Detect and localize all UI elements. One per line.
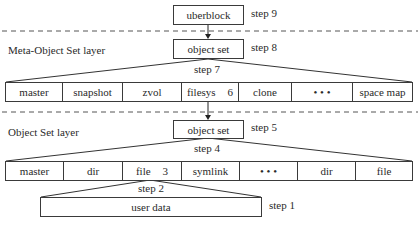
connector-lines <box>0 0 420 230</box>
cell-label: file <box>377 165 392 177</box>
step-1-label: step 1 <box>269 199 295 211</box>
step-4-label: step 4 <box>194 142 220 154</box>
os-cell-dir-2: dir <box>298 162 356 180</box>
mos-object-set-label: object set <box>188 43 230 55</box>
cell-label: • • • <box>260 165 277 177</box>
step-2-label: step 2 <box>138 182 164 194</box>
os-cell-symlink: symlink <box>182 162 240 180</box>
uberblock-label: uberblock <box>187 9 231 21</box>
cell-label: zvol <box>143 86 162 98</box>
user-data-node: user data <box>40 197 262 217</box>
cell-label: master <box>20 165 49 177</box>
step-7-label: step 7 <box>194 63 220 75</box>
mos-layer-title: Meta-Object Set layer <box>8 44 105 56</box>
cell-label: file <box>136 165 151 177</box>
step-9-label: step 9 <box>251 7 277 19</box>
cell-label: filesys <box>187 86 216 98</box>
mos-cell-ellipsis: • • • <box>292 83 353 101</box>
cell-label: master <box>19 86 48 98</box>
mos-object-row: master snapshot zvol filesys6 clone • • … <box>5 82 413 102</box>
os-cell-file-2: file <box>356 162 412 180</box>
cell-label: clone <box>253 86 277 98</box>
cell-number: 3 <box>163 165 169 177</box>
mos-cell-space-map: space map <box>353 83 412 101</box>
cell-label: • • • <box>313 86 330 98</box>
cell-label: dir <box>320 165 332 177</box>
os-object-set-node: object set <box>173 120 244 139</box>
mos-cell-snapshot: snapshot <box>63 83 123 101</box>
os-object-set-label: object set <box>188 124 230 136</box>
cell-label: space map <box>359 86 405 98</box>
mos-cell-master: master <box>6 83 63 101</box>
mos-cell-filesys: filesys6 <box>182 83 239 101</box>
os-cell-dir: dir <box>64 162 123 180</box>
cell-label: dir <box>87 165 99 177</box>
os-cell-file: file3 <box>123 162 182 180</box>
os-cell-ellipsis: • • • <box>240 162 298 180</box>
cell-label: symlink <box>193 165 228 177</box>
cell-label: snapshot <box>73 86 112 98</box>
mos-object-set-node: object set <box>173 39 244 59</box>
step-5-label: step 5 <box>251 121 277 133</box>
mos-cell-clone: clone <box>239 83 292 101</box>
mos-cell-zvol: zvol <box>123 83 182 101</box>
cell-number: 6 <box>228 86 234 98</box>
os-object-row: master dir file3 symlink • • • dir file <box>5 161 413 181</box>
step-8-label: step 8 <box>251 41 277 53</box>
user-data-label: user data <box>131 201 170 213</box>
os-layer-title: Object Set layer <box>8 126 79 138</box>
os-cell-master: master <box>6 162 64 180</box>
uberblock-node: uberblock <box>173 5 244 25</box>
